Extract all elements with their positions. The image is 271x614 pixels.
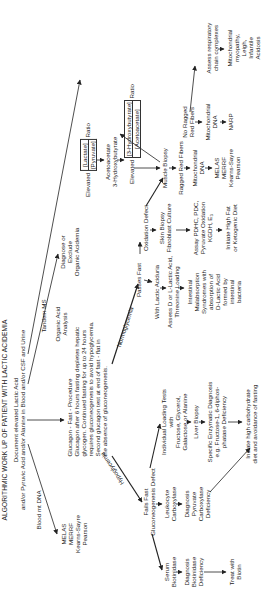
node-blood-mt-dna: Blood mt DNA [35, 490, 42, 529]
node-mito-right: MELAS MERRF Kearns-Sayre Pearson [213, 149, 241, 187]
node-fails-fast: Fails Fast Gluconeogenesis Defect [142, 468, 156, 535]
flowchart-canvas: ALGORITHMIC WORK UP OF PATIENT WITH LACT… [0, 0, 271, 614]
node-elevated-hb-ratio: Elevated [3-Hydroxybutyrate][Acetoacetat… [124, 84, 141, 184]
node-leukocyte: Leukocyte Carboxylase [163, 487, 177, 521]
node-high-fat: Initiate High Fat or Ketogenic Diet [224, 204, 238, 251]
node-specific-enzyme: Specific Enzymatic Diagnosis e.g. Fructo… [206, 382, 227, 463]
node-resp-chain: Assess respiratory chain complexes [205, 23, 219, 74]
node-high-carb: Initiate high carbohydrate diet and avoi… [244, 385, 258, 464]
node-mito-dna-1: Mitochondrial DNA [191, 150, 205, 187]
arrow-no-ragged-to-resp [190, 66, 195, 112]
node-diagnose-exclude: Diagnose or Exclude Organic Acidemia [59, 228, 80, 277]
node-tandem-ms: Tandem MS [40, 299, 47, 332]
node-mito-myopathy: Mitochondrial myopathy, Leigh, Infantile… [226, 30, 261, 67]
arrow-fails-to-serum [152, 534, 162, 570]
node-loading-tests: Individual Loading Tests with Fructose, … [160, 389, 188, 455]
node-mito-dna-2: Mitochondrial DNA [204, 104, 218, 141]
node-biotinidase-deficiency: Diagnosis Biotinidase Deficiency [183, 557, 204, 587]
arrow-fails-to-loading [150, 424, 160, 468]
arrow-document-to-mito-left [28, 444, 57, 534]
node-glucagon-procedure: Glucagon - Fast - Procedure Glucagon aft… [66, 321, 108, 456]
node-pyruvate-carboxylase: Diagnosis Pyruvate Carboxylase Deficienc… [183, 487, 211, 521]
node-assess-d-l: Assess D or L-Lactic Acid, Threonine Loa… [166, 256, 180, 328]
node-narp: NARP [227, 113, 234, 130]
node-document: Document elevated Lactic Acid and/or Pyr… [12, 330, 26, 510]
node-liver-biopsy: Liver Biopsy [192, 405, 199, 439]
node-skin-biopsy: Skin Biopsy Fibroblast Culture [158, 204, 172, 253]
node-acetoacetate: Acetoacetate 3-Hydroxybutyrate [104, 137, 118, 188]
node-serum-biotinidase: Serum Biotinidase [163, 557, 177, 587]
node-treat-biotin: Treat with Biotin [228, 559, 242, 586]
node-mito-left: MELAS MERRF Kearns-Sayre Pearson [60, 515, 88, 553]
node-assay: Assay PDHC, PDC, Pyruvate Oxidation KGDH… [192, 201, 213, 255]
node-elevated-lactate-pyruvate: Elevated [Lactate][Pyruvate] Ratio [80, 123, 97, 197]
node-with-lactic: With Lactic Aciduria [153, 265, 160, 319]
node-ragged-red-fibers: Ragged Red Fibers [177, 141, 184, 195]
node-no-ragged: No Ragged Red Fibers [181, 106, 195, 137]
node-passes-fast: Passes Fast [135, 263, 142, 297]
node-oxidation-defect: Oxidation Defect [142, 205, 149, 251]
node-intestinal: Intestinal Malabsorption Syndromes with … [186, 270, 242, 314]
arrow-passes-to-lactic [144, 280, 152, 282]
node-muscle-biopsy: Muscle Biopsy [161, 148, 168, 188]
page-title: ALGORITHMIC WORK UP OF PATIENT WITH LACT… [1, 320, 8, 521]
